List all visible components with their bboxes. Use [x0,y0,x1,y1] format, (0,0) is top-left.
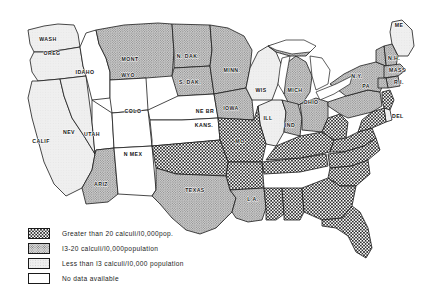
state-IND[interactable] [282,100,302,136]
checkerboard-swatch [28,228,50,239]
state-label-PA: PA [362,83,370,89]
states-layer [28,20,414,258]
state-label-MO: MO [235,138,244,144]
state-TEXAS[interactable] [152,168,236,234]
state-label-NEV: NEV [63,129,75,135]
gray-stipple-swatch [28,243,50,254]
legend-item-less-than-13: Less than I3 calculi/I0,000 population [28,256,184,271]
legend-label-13-to-20: I3-20 calculi/I0,000population [62,245,158,252]
state-label-SDAK: S. DAK. [179,79,201,85]
state-label-COLO: COLO [125,108,142,114]
state-label-WASH: WASH [39,36,56,42]
state-label-IOWA: IOWA [223,105,239,111]
state-label-ARIZ: ARIZ [94,181,108,187]
state-label-OHIO: OHIO [303,99,318,105]
legend-item-13-to-20: I3-20 calculi/I0,000population [28,241,184,256]
state-label-CALIF: CALIF [32,138,50,144]
state-MISS[interactable] [264,188,284,220]
state-MINN[interactable] [210,25,252,94]
state-UTAH[interactable] [92,100,114,154]
state-label-MICH: MICH [287,87,302,93]
state-label-TEXAS: TEXAS [185,187,205,193]
map-legend: Greater than 20 calculi/I0,000pop. I3-20… [28,226,184,286]
legend-item-no-data: No data available [28,271,184,286]
state-label-IND: IND [285,122,295,128]
state-NDAK[interactable] [172,24,212,68]
white-swatch [28,273,50,284]
state-label-KANS: KANS. [195,122,213,128]
state-label-RI: R.I. [394,79,404,85]
state-NEBR[interactable] [148,94,218,120]
state-label-NY: N.Y. [351,73,362,79]
state-COLO[interactable] [112,110,152,148]
state-NJ[interactable] [382,90,394,110]
state-label-NH: N.H. [388,55,400,61]
state-VT[interactable] [376,46,386,66]
state-label-MASS: MASS [389,67,406,73]
legend-label-less-than-13: Less than I3 calculi/I0,000 population [62,260,184,267]
state-label-UTAH: UTAH [84,131,100,137]
state-label-DEL: DEL [392,113,404,119]
state-label-MINN: MINN. [224,67,241,73]
state-label-ILL: ILL [263,115,273,121]
legend-item-greater-than-20: Greater than 20 calculi/I0,000pop. [28,226,184,241]
state-label-NMEX: N MEX [124,151,143,157]
state-label-NDAK: N. DAK. [177,53,200,59]
light-gray-swatch [28,258,50,269]
legend-label-greater-than-20: Greater than 20 calculi/I0,000pop. [62,230,173,237]
state-LA[interactable] [230,188,266,222]
state-label-ME: ME [395,22,404,28]
state-ALA[interactable] [282,188,304,220]
lake-huron-erie [310,56,330,90]
state-label-NEBR: NE BR [196,108,214,114]
legend-label-no-data: No data available [62,275,119,282]
state-label-WIS: WIS [255,87,266,93]
state-label-WYO: WYO [121,72,135,78]
state-label-IDAHO: IDAHO [76,69,95,75]
state-label-MONT: MONT [121,56,138,62]
state-ARK[interactable] [226,162,264,190]
state-label-OREG: OREG [43,50,60,56]
state-label-LA: L A. [247,196,258,202]
state-CONN[interactable] [378,78,388,88]
